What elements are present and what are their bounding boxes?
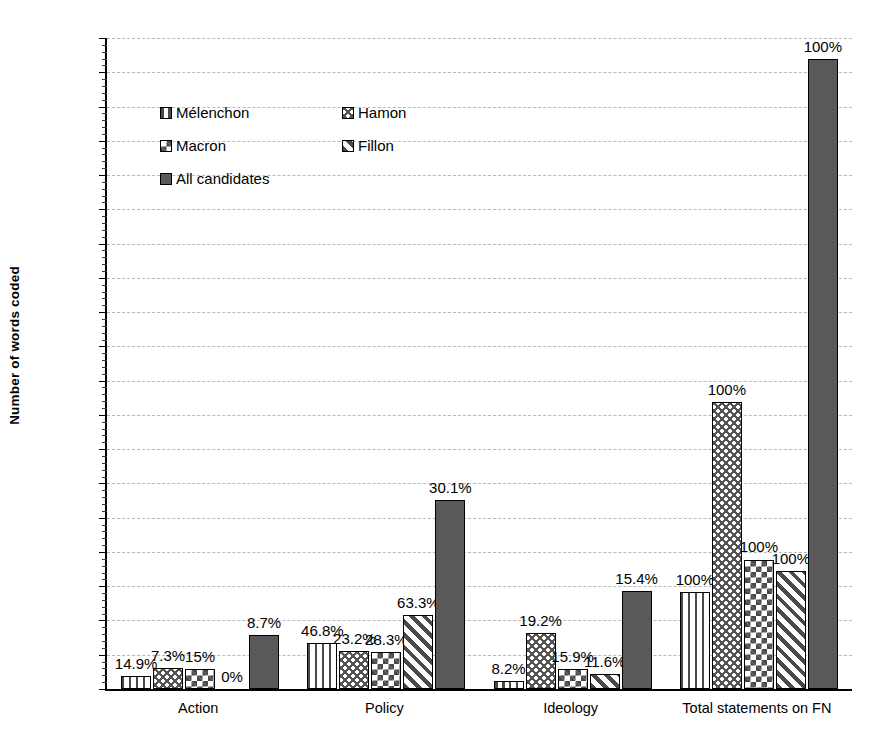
- y-axis-minor-tick: [102, 154, 107, 155]
- y-axis-minor-tick: [102, 422, 107, 423]
- y-axis-minor-tick: [102, 292, 107, 293]
- bar-chart: Number of words coded 010002000300040005…: [0, 0, 884, 750]
- y-axis-minor-tick: [102, 600, 107, 601]
- bar: [622, 591, 652, 689]
- y-axis-minor-tick: [102, 285, 107, 286]
- y-axis-minor-tick: [102, 120, 107, 121]
- y-axis-tick: [99, 312, 107, 313]
- y-axis-tick: [99, 586, 107, 587]
- chart-legend: MélenchonHamonMacronFillonAll candidates: [160, 104, 460, 192]
- swatch-diagonal-stripes-icon: [342, 140, 354, 152]
- bar: [590, 674, 620, 689]
- y-axis-minor-tick: [102, 429, 107, 430]
- bar: [435, 500, 465, 689]
- y-axis-minor-tick: [102, 374, 107, 375]
- gridline: [107, 244, 852, 245]
- y-axis-minor-tick: [102, 559, 107, 560]
- y-axis-tick: [99, 244, 107, 245]
- legend-item-m-lenchon: Mélenchon: [160, 104, 249, 121]
- bar: [403, 615, 433, 689]
- bar: [153, 668, 183, 689]
- bar-value-label: 15%: [171, 648, 229, 665]
- bar: [121, 676, 151, 689]
- y-axis-minor-tick: [102, 134, 107, 135]
- y-axis-minor-tick: [102, 477, 107, 478]
- y-axis-minor-tick: [102, 435, 107, 436]
- y-axis-minor-tick: [102, 497, 107, 498]
- bar: [558, 669, 588, 689]
- y-axis-minor-tick: [102, 189, 107, 190]
- y-axis-minor-tick: [102, 456, 107, 457]
- y-axis-minor-tick: [102, 257, 107, 258]
- bar: [371, 652, 401, 689]
- y-axis-minor-tick: [102, 202, 107, 203]
- y-axis-tick: [99, 689, 107, 690]
- y-axis-minor-tick: [102, 394, 107, 395]
- y-axis-minor-tick: [102, 463, 107, 464]
- y-axis-minor-tick: [102, 305, 107, 306]
- y-axis-minor-tick: [102, 648, 107, 649]
- y-axis-tick: [99, 141, 107, 142]
- y-axis-tick: [99, 107, 107, 108]
- y-axis-minor-tick: [102, 490, 107, 491]
- y-axis-minor-tick: [102, 682, 107, 683]
- bar-value-label: 8.7%: [235, 614, 293, 631]
- y-axis-tick: [99, 483, 107, 484]
- y-axis-minor-tick: [102, 545, 107, 546]
- x-axis-category-label: Action: [178, 700, 218, 716]
- y-axis-minor-tick: [102, 100, 107, 101]
- gridline: [107, 72, 852, 73]
- bar: [249, 635, 279, 689]
- y-axis-tick: [99, 72, 107, 73]
- y-axis-minor-tick: [102, 223, 107, 224]
- bar: [744, 560, 774, 690]
- bar: [680, 592, 710, 689]
- y-axis-tick: [99, 175, 107, 176]
- y-axis-minor-tick: [102, 504, 107, 505]
- bar: [494, 681, 524, 689]
- y-axis-tick: [99, 552, 107, 553]
- x-axis-category-label: Policy: [365, 700, 404, 716]
- y-axis-minor-tick: [102, 148, 107, 149]
- y-axis-minor-tick: [102, 250, 107, 251]
- y-axis-minor-tick: [102, 59, 107, 60]
- x-axis-category-label: Total statements on FN: [682, 700, 831, 716]
- y-axis-minor-tick: [102, 566, 107, 567]
- y-axis-minor-tick: [102, 65, 107, 66]
- y-axis-minor-tick: [102, 675, 107, 676]
- y-axis-minor-tick: [102, 573, 107, 574]
- y-axis-minor-tick: [102, 579, 107, 580]
- y-axis-minor-tick: [102, 593, 107, 594]
- y-axis-minor-tick: [102, 182, 107, 183]
- bar-value-label: 100%: [794, 38, 852, 55]
- y-axis-minor-tick: [102, 470, 107, 471]
- bar: [339, 651, 369, 689]
- y-axis-minor-tick: [102, 340, 107, 341]
- y-axis-minor-tick: [102, 531, 107, 532]
- bar: [776, 571, 806, 689]
- y-axis-minor-tick: [102, 319, 107, 320]
- y-axis-minor-tick: [102, 525, 107, 526]
- gridline: [107, 312, 852, 313]
- legend-item-label: Fillon: [358, 137, 394, 154]
- bar-value-label: 30.1%: [421, 479, 479, 496]
- y-axis-tick: [99, 278, 107, 279]
- y-axis-tick: [99, 620, 107, 621]
- y-axis-minor-tick: [102, 360, 107, 361]
- y-axis-minor-tick: [102, 216, 107, 217]
- y-axis-tick: [99, 38, 107, 39]
- bar-value-label: 19.2%: [512, 612, 570, 629]
- y-axis-minor-tick: [102, 607, 107, 608]
- swatch-vertical-stripes-icon: [160, 107, 172, 119]
- y-axis-minor-tick: [102, 86, 107, 87]
- y-axis-tick: [99, 449, 107, 450]
- bar: [808, 59, 838, 689]
- y-axis-minor-tick: [102, 230, 107, 231]
- y-axis-minor-tick: [102, 79, 107, 80]
- legend-item-label: Macron: [176, 137, 226, 154]
- bar-value-label: 15.4%: [608, 570, 666, 587]
- y-axis-minor-tick: [102, 52, 107, 53]
- y-axis-minor-tick: [102, 442, 107, 443]
- legend-item-label: All candidates: [176, 170, 269, 187]
- x-axis-category-label: Ideology: [543, 700, 598, 716]
